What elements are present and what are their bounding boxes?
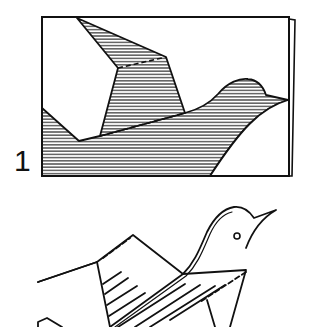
back-wing-lower <box>38 262 97 282</box>
leg <box>207 300 215 327</box>
origami-diagram <box>0 0 309 327</box>
back-wing-edge <box>97 262 110 327</box>
eye-icon <box>234 233 240 239</box>
back-wing-fold <box>103 238 130 258</box>
step-1-figure <box>42 17 295 176</box>
tail <box>38 318 62 327</box>
hatched-wing <box>77 18 185 136</box>
finished-bird <box>38 207 276 327</box>
